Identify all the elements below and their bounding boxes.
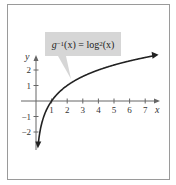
x-tick-label: 5 xyxy=(112,105,117,115)
x-tick-label: 2 xyxy=(65,105,70,115)
x-tick-label: 7 xyxy=(143,105,148,115)
label-mid: (x) = log xyxy=(64,39,99,50)
y-axis-label: y xyxy=(24,51,30,62)
plot-area: 1234567 21−1−2 x y xyxy=(0,0,176,185)
x-tick-label: 1 xyxy=(49,105,54,115)
function-label: g−1(x) = log2(x) xyxy=(45,32,121,56)
y-axis-arrow-icon xyxy=(34,55,39,61)
y-tick-label: −2 xyxy=(21,127,31,137)
x-tick-label: 3 xyxy=(81,105,86,115)
curve-arrow-right-icon xyxy=(152,52,159,59)
y-tick-label: −1 xyxy=(21,112,31,122)
log-curve xyxy=(38,56,154,144)
x-axis-arrow-icon xyxy=(154,99,160,104)
callout-pointer xyxy=(58,56,71,79)
x-tick-label: 6 xyxy=(127,105,132,115)
x-axis-label: x xyxy=(154,104,160,115)
x-tick-label: 4 xyxy=(96,105,101,115)
y-tick-label: 1 xyxy=(27,81,32,91)
label-sup: −1 xyxy=(57,40,64,48)
y-tick-label: 2 xyxy=(27,65,32,75)
label-end: (x) xyxy=(103,39,115,50)
